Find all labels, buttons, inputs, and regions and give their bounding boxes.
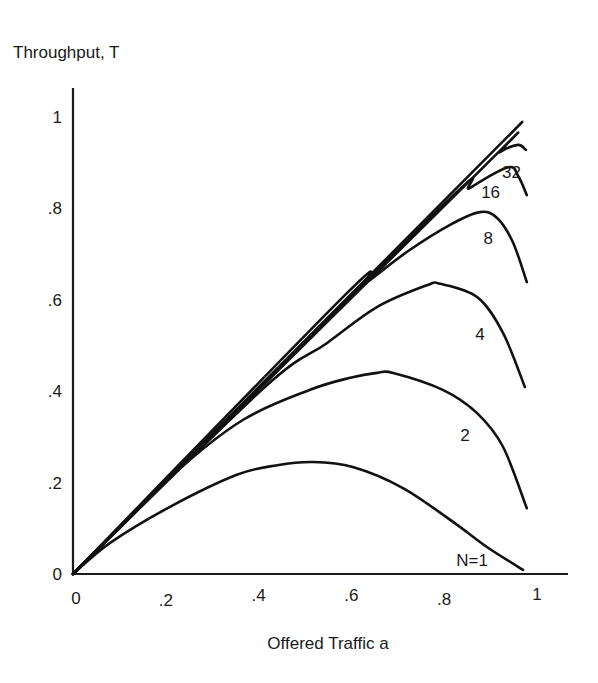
y-tick-label: 0 [53,565,62,584]
chart-canvas: Throughput, T 0.2.4.6.81 0.2.4.6.81 N=12… [0,0,598,683]
y-axis-title: Throughput, T [13,43,119,62]
y-tick-label: .2 [48,474,62,493]
series-n-8-label: 8 [484,229,493,248]
throughput-chart: Throughput, T 0.2.4.6.81 0.2.4.6.81 N=12… [0,0,598,683]
series-n-4-curve [73,282,525,574]
x-axis-title: Offered Traffic a [267,634,389,653]
y-tick-label: .4 [48,382,62,401]
x-tick-label: 0 [71,589,80,608]
y-tick-label: 1 [53,108,62,127]
y-tick-label: .6 [48,291,62,310]
series-labels: N=12481632 [456,163,521,570]
y-tick-label: .8 [48,199,62,218]
x-tick-label: .4 [252,586,266,605]
series-n-4-label: 4 [475,325,484,344]
y-tick-labels: 0.2.4.6.81 [48,108,62,584]
curves [73,122,527,574]
series-n-32-label: 32 [502,163,521,182]
series-n-16-label: 16 [481,183,500,202]
series-n-32-curve [73,133,526,574]
x-tick-label: 1 [532,585,541,604]
x-tick-labels: 0.2.4.6.81 [71,585,541,610]
x-tick-label: .2 [159,591,173,610]
x-tick-label: .8 [437,590,451,609]
series-n-16-curve [73,167,527,574]
series-n-2-label: 2 [460,426,469,445]
series-n-2-curve [73,371,527,574]
series-n-1-label: N=1 [456,551,488,570]
x-tick-label: .6 [344,586,358,605]
